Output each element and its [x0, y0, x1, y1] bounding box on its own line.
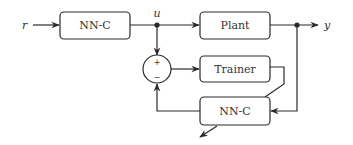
summing-junction: + − — [143, 55, 171, 83]
copy-to-sum-arrow — [157, 84, 200, 111]
nn-controller-label: NN-C — [79, 19, 110, 32]
weight-copy-arrow — [200, 126, 217, 137]
nn-controller-block: NN-C — [60, 12, 130, 39]
plant-label: Plant — [221, 19, 251, 32]
control-signal-label: u — [153, 7, 160, 20]
nn-controller-copy-block: NN-C — [200, 97, 270, 125]
plant-block: Plant — [200, 12, 270, 39]
trainer-label: Trainer — [214, 63, 256, 76]
output-signal-label: y — [323, 19, 331, 32]
minus-sign: − — [154, 73, 161, 82]
reference-signal-label: r — [22, 19, 28, 32]
trainer-block: Trainer — [200, 56, 270, 82]
block-diagram: r NN-C u Plant y + − Trainer NN-C — [0, 0, 353, 145]
plus-sign: + — [154, 58, 161, 67]
nn-controller-copy-label: NN-C — [219, 105, 250, 118]
